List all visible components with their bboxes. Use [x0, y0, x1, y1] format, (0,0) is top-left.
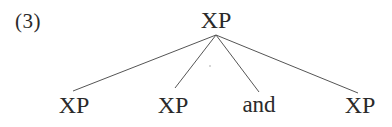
child-node-4: XP	[345, 92, 376, 118]
child-node-1: XP	[59, 92, 90, 118]
child-node-2: XP	[158, 92, 189, 118]
scan-speck	[209, 65, 211, 67]
child-node-3-conjunction: and	[242, 92, 275, 118]
root-node: XP	[201, 7, 232, 33]
